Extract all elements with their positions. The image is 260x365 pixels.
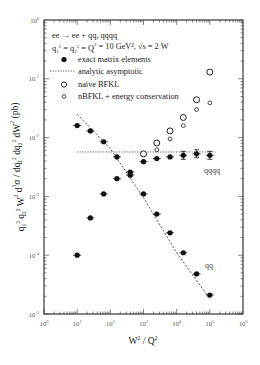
- exact-matrix-point: [167, 154, 172, 159]
- y-tick-label: 100: [30, 16, 40, 24]
- exact-matrix-point: [75, 123, 80, 128]
- y-tick-label: 10-2: [29, 133, 39, 141]
- exact-matrix-point: [194, 271, 199, 276]
- naive-bfkl-point: [141, 151, 147, 157]
- naive-bfkl-point: [180, 114, 186, 120]
- legend-item-label: analytic asymptotic: [78, 67, 143, 76]
- legend-item-label: naive BFKL: [78, 80, 119, 89]
- nbfkl-ec-point: [195, 108, 199, 112]
- exact-matrix-point: [181, 250, 186, 255]
- x-axis-title: W2 / Q2: [128, 335, 157, 346]
- legend-kinematics: q12 = q22 = Q2 = 10 GeV², √s = 2 W: [52, 42, 169, 54]
- exact-matrix-point: [207, 153, 212, 158]
- y-axis-title: q12 q22 W2 d3σ / dq12 dq22 dW2 (pb): [9, 103, 27, 232]
- legend-item-label: nBFKL + energy conservation: [78, 92, 180, 101]
- exact-matrix-point: [141, 159, 146, 164]
- curve-label-qqqq: qqqq: [204, 166, 220, 175]
- nbfkl-ec-point: [168, 137, 172, 141]
- asymptotic-lines: [77, 114, 216, 299]
- naive-bfkl-point: [194, 97, 200, 103]
- cross-section-chart: 10010110210310410510610010-110-210-310-4…: [0, 0, 260, 365]
- y-tick-label: 10-1: [29, 74, 39, 82]
- x-tick-label: 105: [205, 319, 215, 327]
- data-points: [73, 69, 214, 298]
- naive-bfkl-point: [207, 69, 213, 75]
- exact-matrix-point: [88, 128, 93, 133]
- exact-matrix-point: [114, 176, 119, 181]
- nbfkl-ec-point: [208, 101, 212, 105]
- legend: qqqqqqee → ee + qq, qqqqq12 = q22 = Q2 =…: [50, 31, 220, 270]
- x-tick-label: 102: [106, 319, 115, 327]
- exact-matrix-point: [194, 151, 199, 156]
- exact-matrix-point: [114, 154, 119, 159]
- y-tick-label: 10-3: [29, 192, 40, 200]
- legend-small-circle-icon: [62, 95, 66, 99]
- curve-label-qq: qq: [205, 261, 213, 270]
- nbfkl-ec-point: [181, 124, 185, 128]
- x-tick-label: 100: [40, 319, 50, 327]
- x-tick-label: 103: [139, 319, 149, 327]
- legend-open-circle-icon: [61, 82, 66, 87]
- x-tick-label: 104: [172, 319, 182, 327]
- naive-bfkl-point: [167, 128, 173, 134]
- x-tick-label: 101: [73, 319, 82, 327]
- exact-matrix-point: [181, 153, 186, 158]
- exact-matrix-point: [128, 169, 133, 174]
- x-tick-label: 106: [239, 319, 249, 327]
- legend-item-label: exact matrix elements: [78, 55, 151, 64]
- exact-matrix-point: [207, 292, 212, 297]
- exact-matrix-point: [88, 215, 93, 220]
- exact-matrix-point: [75, 253, 80, 258]
- y-tick-label: 10-4: [29, 251, 40, 259]
- exact-matrix-point: [101, 139, 106, 144]
- exact-matrix-point: [101, 191, 106, 196]
- exact-matrix-point: [167, 230, 172, 235]
- asymptotic-qq-line: [77, 114, 210, 299]
- exact-matrix-point: [141, 191, 146, 196]
- nbfkl-ec-point: [155, 148, 159, 152]
- exact-matrix-point: [154, 212, 159, 217]
- legend-process: ee → ee + qq, qqqq: [52, 31, 117, 40]
- legend-filled-circle-icon: [61, 57, 66, 62]
- exact-matrix-point: [154, 156, 159, 161]
- y-tick-label: 10-5: [29, 310, 40, 318]
- naive-bfkl-point: [154, 140, 160, 146]
